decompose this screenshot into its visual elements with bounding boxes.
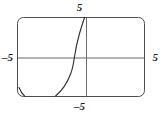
axis-label-bottom: –5 [0, 101, 160, 112]
axis-label-top: 5 [0, 2, 160, 13]
axis-label-right: 5 [153, 52, 159, 63]
graph-figure: 5 –5 –5 5 [0, 0, 161, 117]
axis-label-left: –5 [2, 52, 13, 63]
